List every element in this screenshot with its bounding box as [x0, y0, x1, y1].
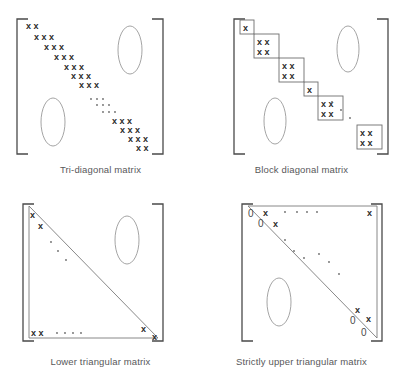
- svg-text:x x: x x: [282, 71, 295, 81]
- svg-text:x x x: x x x: [34, 32, 54, 42]
- panel-lower-triangular: x x x x x x Lower triangul: [0, 190, 201, 381]
- right-bracket-icon: [152, 204, 163, 341]
- ellipsis-oval-upper: [118, 26, 142, 74]
- svg-text:x: x: [243, 23, 248, 33]
- left-bracket-icon: [17, 19, 28, 154]
- svg-text:0: 0: [361, 327, 367, 338]
- svg-text:x: x: [366, 314, 371, 324]
- caption-strictly-upper-triangular: Strictly upper triangular matrix: [201, 356, 402, 367]
- panel-tri-diagonal: x x x x x x x x x x x x x x x x x x x x …: [0, 0, 201, 190]
- block-3: x x x x: [279, 58, 304, 82]
- block-6: x x x x: [357, 125, 382, 149]
- svg-text:x: x: [367, 208, 372, 218]
- svg-text:x x: x x: [321, 109, 334, 119]
- upper-triangular-top-dots: [284, 211, 318, 213]
- block-diagonal-dots: [331, 101, 351, 119]
- svg-text:x: x: [273, 219, 278, 229]
- caption-lower-triangular: Lower triangular matrix: [0, 356, 201, 367]
- block-5: x x x x: [318, 96, 343, 120]
- left-bracket-icon: [242, 204, 253, 341]
- svg-text:x x: x x: [31, 328, 44, 338]
- block-diagonal-matrix-graphic: x x x x x x x x x x x x: [201, 0, 402, 165]
- svg-text:x x: x x: [257, 47, 270, 57]
- svg-text:x x: x x: [257, 37, 270, 47]
- caption-block-diagonal: Block diagonal matrix: [201, 164, 402, 175]
- svg-text:x: x: [152, 332, 157, 342]
- ellipsis-oval-upper: [337, 26, 359, 72]
- upper-triangular-top-right: x: [367, 208, 372, 218]
- upper-triangle-outline: [248, 206, 377, 338]
- svg-text:x x x: x x x: [44, 42, 64, 52]
- panel-strictly-upper-triangular: 0 x 0 x x: [201, 190, 402, 381]
- left-bracket-icon: [23, 204, 34, 341]
- svg-text:x: x: [30, 210, 35, 220]
- ellipsis-oval-upper: [115, 216, 139, 264]
- block-4: x: [304, 82, 318, 96]
- panel-block-diagonal: x x x x x x x x x x x x: [201, 0, 402, 190]
- svg-text:x x: x x: [321, 99, 334, 109]
- figure-sheet: x x x x x x x x x x x x x x x x x x x x …: [0, 0, 402, 381]
- right-bracket-icon: [152, 19, 163, 154]
- svg-text:x x: x x: [360, 128, 373, 138]
- lower-triangular-bottom-row: x x: [31, 328, 44, 338]
- svg-text:x x: x x: [26, 21, 39, 31]
- left-bracket-icon: [234, 19, 245, 154]
- right-bracket-icon: [377, 19, 388, 154]
- lower-triangle-outline: [29, 206, 158, 338]
- block-1: x: [240, 20, 254, 34]
- tri-diagonal-matrix-graphic: x x x x x x x x x x x x x x x x x x x x …: [0, 0, 201, 165]
- svg-text:x: x: [141, 324, 146, 334]
- svg-text:0: 0: [258, 218, 264, 229]
- svg-text:x: x: [263, 208, 268, 218]
- strictly-upper-triangular-matrix-graphic: 0 x 0 x x: [201, 190, 402, 356]
- right-bracket-icon: [371, 204, 382, 341]
- lower-triangular-diagonal-dots: [50, 241, 67, 261]
- svg-text:x x: x x: [360, 138, 373, 148]
- svg-text:x x x: x x x: [54, 52, 74, 62]
- upper-triangular-diagonal-dots: [284, 239, 340, 275]
- caption-tri-diagonal: Tri-diagonal matrix: [0, 164, 201, 175]
- svg-text:0: 0: [350, 315, 356, 326]
- ellipsis-oval-lower: [41, 98, 65, 146]
- svg-text:x x: x x: [282, 61, 295, 71]
- upper-triangular-top-left: 0 x 0 x: [248, 208, 278, 229]
- block-2: x x x x: [254, 34, 279, 58]
- svg-text:x: x: [307, 85, 312, 95]
- svg-text:x x x: x x x: [79, 80, 99, 90]
- tri-diagonal-entries: x x x x x x x x x x x x x x x x x x x x …: [26, 21, 149, 153]
- ellipsis-oval-lower: [264, 98, 286, 144]
- svg-text:x: x: [355, 305, 360, 315]
- lower-triangular-matrix-graphic: x x x x x x: [0, 190, 201, 356]
- svg-text:0: 0: [248, 208, 254, 219]
- svg-text:x: x: [38, 221, 43, 231]
- ellipsis-oval-lower: [267, 278, 291, 326]
- tri-diagonal-dots: [90, 98, 116, 113]
- lower-triangular-bottom-dots: [56, 332, 82, 334]
- svg-text:x x: x x: [136, 143, 149, 153]
